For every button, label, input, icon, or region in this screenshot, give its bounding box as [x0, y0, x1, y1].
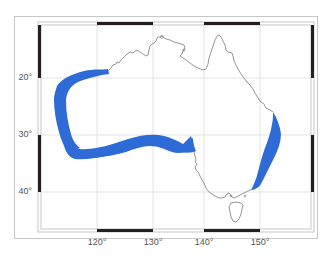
lon-tick-150: 150°	[245, 237, 275, 247]
island-marker	[244, 195, 246, 197]
australia-coastline	[108, 35, 273, 198]
lat-tick-20: 20°	[10, 72, 32, 82]
graticule	[41, 25, 311, 229]
east-coast-highlight	[251, 112, 281, 190]
lon-tick-120: 120°	[82, 237, 112, 247]
lat-tick-30: 30°	[10, 129, 32, 139]
lon-tick-130: 130°	[138, 237, 168, 247]
map-canvas	[0, 0, 333, 269]
lon-tick-140: 140°	[189, 237, 219, 247]
lat-tick-40: 40°	[10, 186, 32, 196]
tasmania-outline	[229, 202, 243, 222]
south-coast-band-body	[69, 135, 195, 159]
